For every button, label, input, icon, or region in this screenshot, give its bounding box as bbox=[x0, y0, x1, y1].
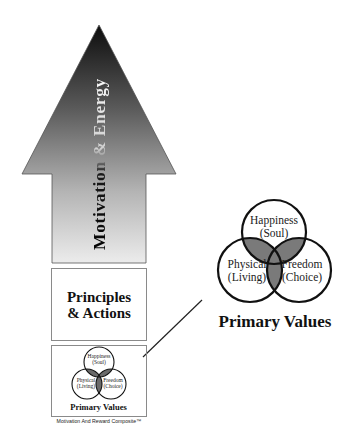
venn-label-freedom: Freedom (Choice) bbox=[273, 258, 331, 283]
small-venn-label-freedom: Freedom (Choice) bbox=[93, 377, 133, 389]
large-venn-title: Primary Values bbox=[210, 312, 340, 332]
venn-label-physical: Physical (Living) bbox=[218, 258, 276, 283]
composite-caption: Motivation And Reward Composite™ bbox=[40, 418, 158, 424]
small-venn-title: Primary Values bbox=[51, 402, 146, 412]
small-venn-label-happiness: Happiness (Soul) bbox=[79, 353, 119, 365]
venn-label-happiness: Happiness (Soul) bbox=[244, 214, 304, 239]
